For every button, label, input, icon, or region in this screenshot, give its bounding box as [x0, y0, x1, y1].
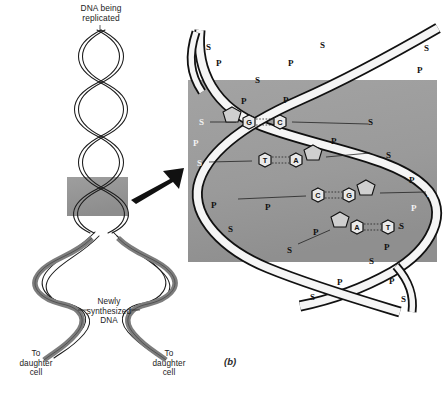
svg-text:S: S	[228, 224, 233, 234]
svg-text:S: S	[401, 294, 406, 304]
svg-text:S: S	[424, 43, 429, 53]
svg-text:S: S	[199, 117, 204, 127]
svg-text:A: A	[354, 223, 360, 232]
svg-text:S: S	[386, 150, 391, 160]
svg-text:T: T	[386, 223, 391, 232]
sugar-pentagon	[331, 212, 349, 227]
base-hexagon: T	[382, 220, 394, 234]
detailed-helix: G C T A	[0, 0, 446, 393]
svg-text:S: S	[197, 158, 202, 168]
hydrogen-bonds	[364, 224, 381, 230]
svg-text:P: P	[265, 202, 271, 212]
backbone-stub-arcs	[191, 32, 412, 312]
svg-text:G: G	[346, 191, 352, 200]
svg-text:C: C	[315, 191, 321, 200]
daughter-cell-right-label: To daughter cell	[143, 349, 195, 378]
newly-synthesized-label: Newly synthesized DNA	[84, 297, 134, 326]
svg-text:S: S	[287, 245, 292, 255]
base-hexagon: G	[243, 115, 255, 129]
dna-replication-figure: G C T A	[0, 0, 446, 393]
svg-text:S: S	[368, 117, 373, 127]
svg-text:P: P	[417, 65, 423, 75]
base-hexagon: T	[259, 153, 271, 167]
svg-text:P: P	[193, 138, 199, 148]
svg-text:P: P	[409, 175, 415, 185]
svg-text:P: P	[211, 200, 217, 210]
svg-text:P: P	[337, 277, 343, 287]
figure-letter: (b)	[224, 356, 236, 367]
svg-text:P: P	[331, 136, 337, 146]
svg-text:S: S	[310, 292, 315, 302]
svg-text:S: S	[255, 75, 260, 85]
svg-text:P: P	[389, 276, 395, 286]
backbone-ribbon-left	[199, 30, 436, 306]
hydrogen-bonds	[325, 192, 342, 198]
svg-text:S: S	[369, 256, 374, 266]
svg-text:P: P	[283, 95, 289, 105]
svg-text:P: P	[384, 242, 390, 252]
base-hexagon: G	[343, 188, 355, 202]
base-hexagon: C	[274, 115, 286, 129]
base-hexagon: C	[312, 188, 324, 202]
svg-text:C: C	[277, 118, 283, 127]
svg-text:S: S	[320, 40, 325, 50]
daughter-cell-left-label: To daughter cell	[10, 349, 62, 378]
svg-text:T: T	[263, 156, 268, 165]
svg-text:S: S	[427, 189, 432, 199]
svg-text:S: S	[399, 221, 404, 231]
svg-text:G: G	[246, 118, 252, 127]
page-title: DNA being replicated	[58, 4, 144, 24]
svg-text:P: P	[411, 203, 417, 213]
svg-text:A: A	[293, 156, 299, 165]
svg-text:P: P	[241, 96, 247, 106]
svg-text:S: S	[206, 42, 211, 52]
base-hexagon: A	[290, 153, 302, 167]
sugar-pentagon	[357, 180, 375, 195]
svg-text:P: P	[216, 58, 222, 68]
svg-text:P: P	[288, 58, 294, 68]
base-hexagon: A	[351, 220, 363, 234]
svg-text:P: P	[313, 227, 319, 237]
hydrogen-bonds	[272, 157, 289, 163]
